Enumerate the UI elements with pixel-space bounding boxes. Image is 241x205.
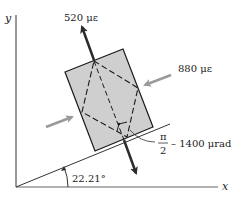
compression-arrow-left xyxy=(46,117,72,127)
compression-arrow-right xyxy=(145,75,171,85)
tension-arrow-up xyxy=(82,27,94,60)
angle-label: 22.21° xyxy=(72,173,106,184)
y-axis-label: y xyxy=(4,12,12,25)
strain-label-880: 880 με xyxy=(178,63,212,74)
angle-dot xyxy=(118,123,120,125)
strain-diagram: y x 22.21° 520 με 880 με π 2 – 1400 μrad xyxy=(0,0,241,205)
shear-pi: π xyxy=(160,131,167,142)
tension-arrow-down xyxy=(124,140,136,173)
strain-label-520: 520 με xyxy=(64,12,98,23)
x-axis-label: x xyxy=(222,180,229,193)
shear-rest: – 1400 μrad xyxy=(171,138,232,149)
shear-den: 2 xyxy=(160,145,166,156)
